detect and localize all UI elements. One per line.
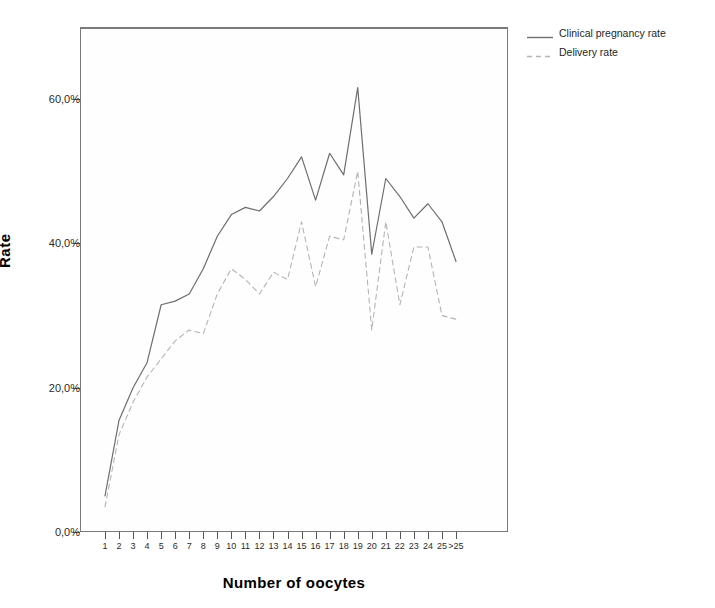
legend-swatch-solid-icon (527, 28, 553, 37)
x-tick-mark (400, 532, 401, 539)
y-axis-title: Rate (0, 233, 13, 268)
chart-legend: Clinical pregnancy rateDelivery rate (527, 24, 712, 62)
x-tick-label: 9 (215, 541, 220, 551)
x-tick-mark (428, 532, 429, 539)
x-tick-mark (358, 532, 359, 539)
x-axis: 1234567891011121314151617181920212223242… (80, 532, 508, 608)
x-tick-mark (456, 532, 457, 539)
x-tick-label: 15 (297, 541, 307, 551)
x-tick-label: 20 (367, 541, 377, 551)
x-tick-label: 10 (226, 541, 236, 551)
x-tick-mark (161, 532, 162, 539)
x-tick-label: 2 (117, 541, 122, 551)
x-tick-mark (288, 532, 289, 539)
x-tick-label: 14 (283, 541, 293, 551)
x-tick-label: 5 (159, 541, 164, 551)
x-tick-label: 13 (268, 541, 278, 551)
legend-item[interactable]: Delivery rate (527, 43, 712, 60)
x-tick-mark (231, 532, 232, 539)
chart-plot-svg (80, 27, 508, 532)
x-tick-mark (217, 532, 218, 539)
x-tick-label: 16 (311, 541, 321, 551)
x-tick-label: 1 (102, 541, 107, 551)
x-tick-mark (442, 532, 443, 539)
x-tick-mark (414, 532, 415, 539)
x-tick-label: 12 (254, 541, 264, 551)
legend-item[interactable]: Clinical pregnancy rate (527, 24, 712, 41)
x-tick-label: 11 (241, 541, 250, 551)
x-tick-label: 3 (131, 541, 136, 551)
x-tick-label: 24 (423, 541, 433, 551)
x-axis-title: Number of oocytes (80, 574, 508, 591)
x-tick-mark (372, 532, 373, 539)
x-tick-mark (302, 532, 303, 539)
x-tick-label: 19 (353, 541, 363, 551)
x-tick-mark (344, 532, 345, 539)
x-tick-mark (119, 532, 120, 539)
x-tick-label: >25 (448, 541, 463, 551)
x-tick-label: 21 (381, 541, 391, 551)
x-tick-mark (245, 532, 246, 539)
y-axis: 0,0%20,0%40,0%60,0% Rate (0, 0, 80, 608)
x-tick-mark (203, 532, 204, 539)
x-tick-mark (175, 532, 176, 539)
x-tick-label: 23 (409, 541, 419, 551)
x-tick-label: 22 (395, 541, 405, 551)
x-tick-label: 8 (201, 541, 206, 551)
chart-figure: 0,0%20,0%40,0%60,0% Rate 123456789101112… (0, 0, 715, 608)
x-tick-mark (316, 532, 317, 539)
x-tick-mark (386, 532, 387, 539)
y-tick-label: 20,0% (18, 382, 80, 394)
legend-label: Clinical pregnancy rate (559, 27, 666, 39)
y-tick-label: 0,0% (18, 526, 80, 538)
x-tick-mark (147, 532, 148, 539)
x-tick-mark (330, 532, 331, 539)
x-tick-label: 6 (173, 541, 178, 551)
x-tick-label: 25 (437, 541, 447, 551)
legend-label: Delivery rate (559, 46, 618, 58)
x-tick-label: 18 (339, 541, 349, 551)
x-tick-mark (105, 532, 106, 539)
x-tick-label: 4 (145, 541, 150, 551)
y-tick-label: 60,0% (18, 93, 80, 105)
x-tick-label: 17 (325, 541, 335, 551)
x-tick-mark (273, 532, 274, 539)
x-tick-mark (259, 532, 260, 539)
series-line-2 (105, 171, 456, 506)
legend-swatch-dashed-icon (527, 47, 553, 56)
x-tick-mark (189, 532, 190, 539)
x-tick-mark (133, 532, 134, 539)
x-tick-label: 7 (187, 541, 192, 551)
y-tick-label: 40,0% (18, 237, 80, 249)
